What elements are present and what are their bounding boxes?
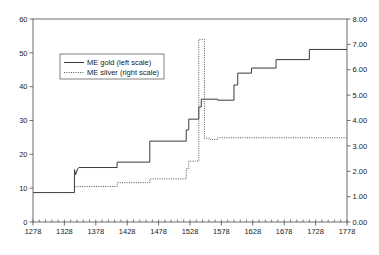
y-tick-label-left: 60 xyxy=(19,15,27,24)
y-tick-label-right: 5.00 xyxy=(353,91,368,100)
y-tick-label-right: 2.00 xyxy=(353,167,368,176)
x-tick-label: 1678 xyxy=(276,227,293,236)
figure-background xyxy=(0,0,379,255)
y-tick-label-left: 20 xyxy=(19,150,27,159)
x-tick-label: 1428 xyxy=(119,227,136,236)
y-tick-label-right: 0.00 xyxy=(353,218,368,227)
y-tick-label-left: 30 xyxy=(19,116,27,125)
y-tick-label-right: 8.00 xyxy=(353,15,368,24)
x-tick-label: 1778 xyxy=(339,227,356,236)
y-tick-label-left: 0 xyxy=(23,218,27,227)
x-tick-label: 1278 xyxy=(25,227,42,236)
x-tick-label: 1728 xyxy=(307,227,324,236)
x-tick-label: 1528 xyxy=(182,227,199,236)
y-tick-label-left: 10 xyxy=(19,184,27,193)
x-tick-label: 1378 xyxy=(87,227,104,236)
plot-area: 1278132813781428147815281578162816781728… xyxy=(0,0,379,255)
y-tick-label-right: 4.00 xyxy=(353,116,368,125)
x-tick-label: 1628 xyxy=(244,227,261,236)
y-tick-label-right: 7.00 xyxy=(353,40,368,49)
y-tick-label-left: 50 xyxy=(19,49,27,58)
legend-label-gold: ME gold (left scale) xyxy=(87,58,152,67)
y-tick-label-left: 40 xyxy=(19,82,27,91)
legend-label-silver: ME silver (right scale) xyxy=(87,68,160,77)
y-tick-label-right: 3.00 xyxy=(353,142,368,151)
y-tick-label-right: 1.00 xyxy=(353,192,368,201)
x-tick-label: 1328 xyxy=(56,227,73,236)
x-tick-label: 1578 xyxy=(213,227,230,236)
chart-legend: ME gold (left scale)ME silver (right sca… xyxy=(60,54,164,79)
y-tick-label-right: 6.00 xyxy=(353,65,368,74)
x-tick-label: 1478 xyxy=(150,227,167,236)
chart-figure: £stg./lb. troy £stg./lb. troy 1278132813… xyxy=(0,0,379,255)
